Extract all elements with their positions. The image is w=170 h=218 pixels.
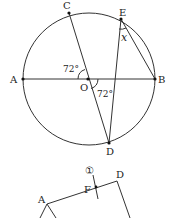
- side-a-right: [47, 204, 56, 218]
- label-f: F: [84, 184, 91, 195]
- angle-label-x: x: [121, 31, 128, 44]
- label-c: C: [63, 0, 71, 11]
- figure-circle: A B O C E D 72° 72° x: [9, 0, 165, 157]
- point-a: [21, 77, 24, 80]
- geometry-diagram: A B O C E D 72° 72° x A F D ①: [0, 0, 170, 218]
- label-b: B: [158, 74, 165, 85]
- label-a2: A: [37, 194, 46, 205]
- side-d-down: [117, 181, 130, 218]
- point-f: [95, 186, 98, 189]
- label-a: A: [9, 74, 18, 85]
- point-b: [153, 77, 156, 80]
- point-d: [107, 141, 110, 144]
- chord-ed: [109, 19, 121, 143]
- side-ad: [47, 181, 117, 204]
- angle-label-aoc: 72°: [63, 64, 79, 74]
- label-e: E: [119, 7, 126, 18]
- point-o: [86, 77, 89, 80]
- label-o: O: [80, 82, 88, 93]
- label-line-1: ①: [85, 165, 94, 176]
- chord-eb: [121, 19, 155, 79]
- point-c: [67, 11, 70, 14]
- figure-quadrilateral: A F D ①: [37, 165, 130, 218]
- angle-label-bod: 72°: [97, 89, 113, 99]
- label-d: D: [106, 146, 114, 157]
- side-a-left: [40, 204, 47, 218]
- angle-arc-aoc: [78, 70, 85, 80]
- label-d2: D: [116, 169, 124, 180]
